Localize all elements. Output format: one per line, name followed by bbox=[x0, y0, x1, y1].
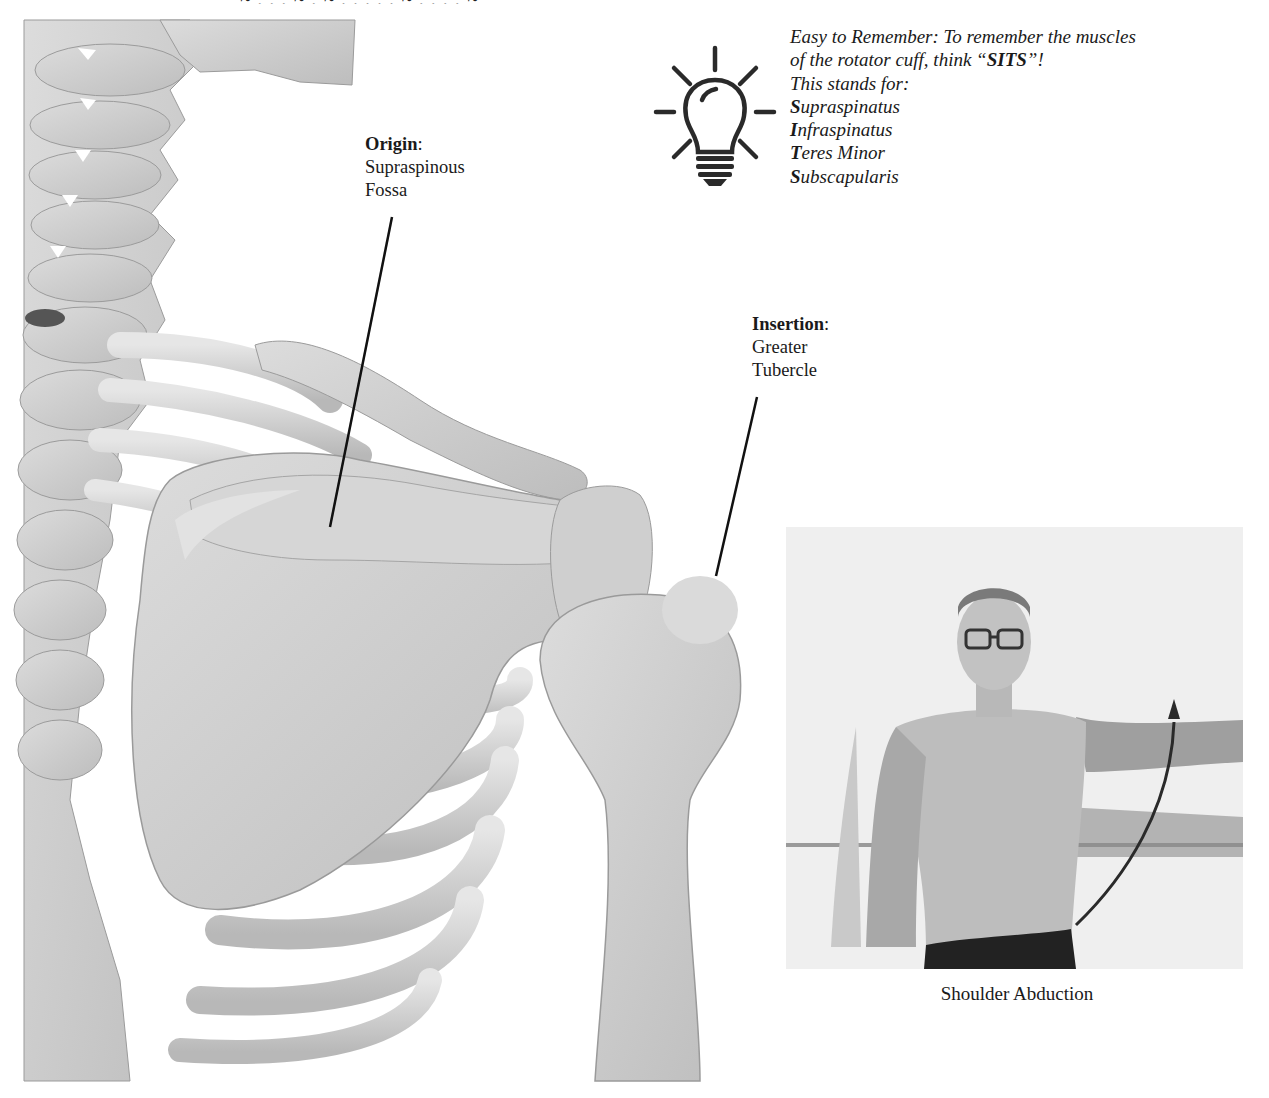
muscle-teres-minor: Teres Minor bbox=[790, 141, 1260, 164]
insertion-title: Insertion bbox=[752, 314, 824, 334]
skull-base bbox=[160, 20, 355, 85]
insertion-pointer-line bbox=[716, 397, 757, 576]
insertion-line-2: Tubercle bbox=[752, 359, 829, 382]
origin-label: Origin: Supraspinous Fossa bbox=[365, 133, 465, 202]
origin-line-1: Supraspinous bbox=[365, 156, 465, 179]
tip-line-1: Easy to Remember: To remember the muscle… bbox=[790, 25, 1260, 48]
insertion-label: Insertion: Greater Tubercle bbox=[752, 313, 829, 382]
origin-line-2: Fossa bbox=[365, 179, 465, 202]
lightbulb-icon bbox=[650, 40, 780, 190]
sits-acronym: SITS bbox=[987, 49, 1027, 70]
mnemonic-tip: Easy to Remember: To remember the muscle… bbox=[790, 25, 1260, 188]
shoulder-abduction-photo bbox=[786, 527, 1243, 969]
tip-line-3: This stands for: bbox=[790, 72, 1260, 95]
insertion-line-1: Greater bbox=[752, 336, 829, 359]
origin-title: Origin bbox=[365, 134, 417, 154]
muscle-subscapularis: Subscapularis bbox=[790, 165, 1260, 188]
muscle-supraspinatus: Supraspinatus bbox=[790, 95, 1260, 118]
muscle-infraspinatus: Infraspinatus bbox=[790, 118, 1260, 141]
humerus bbox=[540, 594, 741, 1081]
tip-line-2: of the rotator cuff, think “SITS”! bbox=[790, 48, 1260, 71]
figure-caption: Shoulder Abduction bbox=[786, 983, 1248, 1005]
